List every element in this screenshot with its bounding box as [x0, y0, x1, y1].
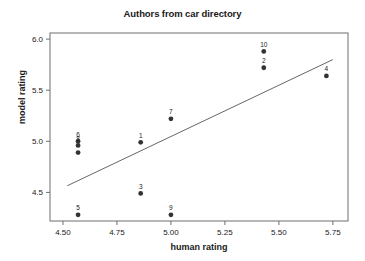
data-point — [138, 140, 143, 145]
y-tick-label: 6.0 — [32, 35, 44, 44]
data-point — [324, 74, 329, 79]
x-tick-label: 4.50 — [55, 228, 71, 237]
data-point-label: 9 — [169, 204, 173, 211]
x-axis-ticks: 4.504.755.005.255.505.75 — [55, 221, 341, 237]
y-axis-ticks: 4.55.05.56.0 — [32, 35, 50, 197]
data-point — [76, 150, 81, 155]
data-point — [169, 212, 174, 217]
x-tick-label: 4.75 — [109, 228, 125, 237]
data-point — [76, 143, 81, 148]
x-tick-label: 5.75 — [325, 228, 341, 237]
data-point-label: 4 — [325, 65, 329, 72]
data-points: 68513791024 — [76, 41, 329, 217]
data-point-label: 1 — [139, 132, 143, 139]
regression-line — [67, 60, 333, 186]
x-tick-label: 5.50 — [271, 228, 287, 237]
data-point — [169, 116, 174, 121]
data-point-label: 2 — [262, 57, 266, 64]
scatter-chart: Authors from car directory model rating … — [0, 0, 365, 261]
plot-area: 4.504.755.005.255.505.75 4.55.05.56.0 68… — [0, 0, 365, 261]
x-tick-label: 5.00 — [163, 228, 179, 237]
fit-line — [67, 60, 333, 186]
y-tick-label: 5.0 — [32, 137, 44, 146]
plot-border — [50, 33, 348, 221]
y-tick-label: 4.5 — [32, 188, 44, 197]
data-point-label: 3 — [139, 183, 143, 190]
data-point-label: 8 — [76, 135, 80, 142]
data-point — [261, 49, 266, 54]
x-tick-label: 5.25 — [217, 228, 233, 237]
data-point-label: 10 — [260, 41, 268, 48]
data-point — [76, 212, 81, 217]
data-point — [261, 65, 266, 70]
data-point-label: 7 — [169, 108, 173, 115]
plot-frame — [50, 33, 348, 221]
y-tick-label: 5.5 — [32, 86, 44, 95]
data-point — [138, 191, 143, 196]
data-point-label: 5 — [76, 204, 80, 211]
